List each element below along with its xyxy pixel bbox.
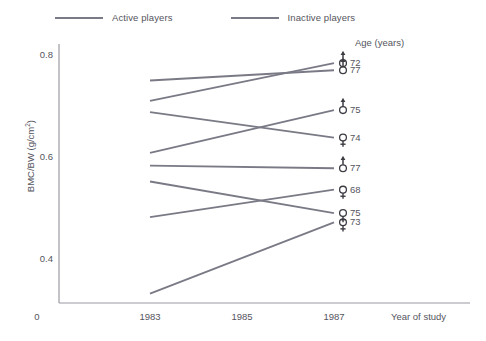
series-line: [150, 63, 334, 101]
age-value-label: 77: [350, 162, 361, 173]
male-symbol-icon: [340, 156, 347, 172]
age-value-label: 74: [350, 132, 361, 143]
chart-root: Active players Inactive players BMC/BW (…: [0, 0, 486, 341]
series-line: [150, 70, 334, 80]
age-value-label: 73: [350, 216, 361, 227]
female-symbol-icon: [340, 134, 347, 147]
series-line: [150, 166, 334, 169]
plot-area: [0, 0, 486, 341]
age-value-label: 77: [350, 64, 361, 75]
male-symbol-icon: [340, 98, 347, 114]
sex-symbol-layer: [340, 51, 347, 232]
series-line: [150, 181, 334, 213]
age-value-label: 68: [350, 184, 361, 195]
series-layer: [150, 63, 334, 294]
age-value-label: 75: [350, 104, 361, 115]
series-line: [150, 190, 334, 218]
series-line: [150, 222, 334, 293]
female-symbol-icon: [340, 186, 347, 199]
